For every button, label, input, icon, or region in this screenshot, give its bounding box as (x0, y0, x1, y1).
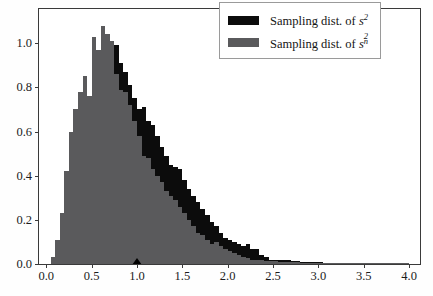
y-tick-mark (35, 132, 39, 133)
x-tick-mark (318, 264, 319, 268)
y-tick-mark (35, 220, 39, 221)
x-tick-mark (273, 264, 274, 268)
y-tick-label: 0.0 (16, 258, 32, 271)
legend-item-s2[interactable]: Sampling dist. of s2 (228, 9, 372, 31)
y-tick-mark (35, 87, 39, 88)
legend-label-sn2: Sampling dist. of s2n (270, 35, 371, 50)
x-tick-label: 2.0 (220, 270, 236, 283)
x-tick-label: 3.5 (356, 270, 372, 283)
legend-label-s2: Sampling dist. of s2 (270, 13, 368, 28)
x-tick-label: 2.5 (265, 270, 281, 283)
x-tick-mark (228, 264, 229, 268)
x-tick-label: 1.5 (175, 270, 191, 283)
x-tick-mark (409, 264, 410, 268)
x-tick-mark (137, 264, 138, 268)
y-tick-label: 0.8 (16, 81, 32, 94)
x-tick-label: 0.0 (38, 270, 54, 283)
y-tick-mark (35, 264, 39, 265)
x-tick-label: 1.0 (129, 270, 145, 283)
y-tick-label: 0.2 (16, 214, 32, 227)
x-tick-mark (182, 264, 183, 268)
x-tick-label: 0.5 (84, 270, 100, 283)
x-tick-mark (46, 264, 47, 268)
x-tick-mark (92, 264, 93, 268)
legend-swatch-sn2 (228, 38, 259, 47)
legend-swatch-s2 (228, 16, 259, 25)
x-tick-label: 4.0 (401, 270, 417, 283)
y-tick-mark (35, 43, 39, 44)
y-tick-label: 0.4 (16, 169, 32, 182)
x-tick-label: 3.0 (311, 270, 327, 283)
legend-item-sn2[interactable]: Sampling dist. of s2n (228, 31, 372, 53)
x-tick-mark (364, 264, 365, 268)
legend[interactable]: Sampling dist. of s2 Sampling dist. of s… (219, 2, 381, 59)
y-tick-mark (35, 176, 39, 177)
histogram-figure: 0.00.51.01.52.02.53.03.54.0 0.00.20.40.6… (0, 0, 433, 296)
y-tick-label: 0.6 (16, 125, 32, 138)
y-tick-label: 1.0 (16, 37, 32, 50)
